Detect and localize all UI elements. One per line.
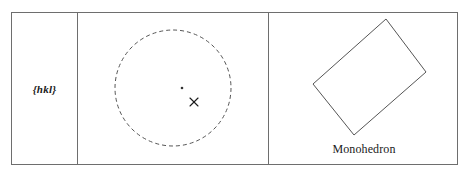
- cell-stereographic-projection: [78, 13, 268, 164]
- monohedron-face-outline: [313, 19, 426, 135]
- cell-crystal-form: Monohedron: [269, 13, 459, 164]
- form-symbol-label: {hkl}: [12, 13, 77, 164]
- stereographic-projection-diagram: [78, 13, 268, 164]
- primitive-circle: [115, 30, 231, 146]
- figure-page: {hkl} Monohedron: [0, 0, 470, 179]
- cell-form-symbol: {hkl}: [12, 13, 77, 164]
- pole-upper-dot-icon: [181, 87, 184, 90]
- pole-lower-cross-icon: [190, 98, 198, 106]
- crystal-form-name: Monohedron: [269, 142, 459, 157]
- figure-table: {hkl} Monohedron: [11, 12, 458, 165]
